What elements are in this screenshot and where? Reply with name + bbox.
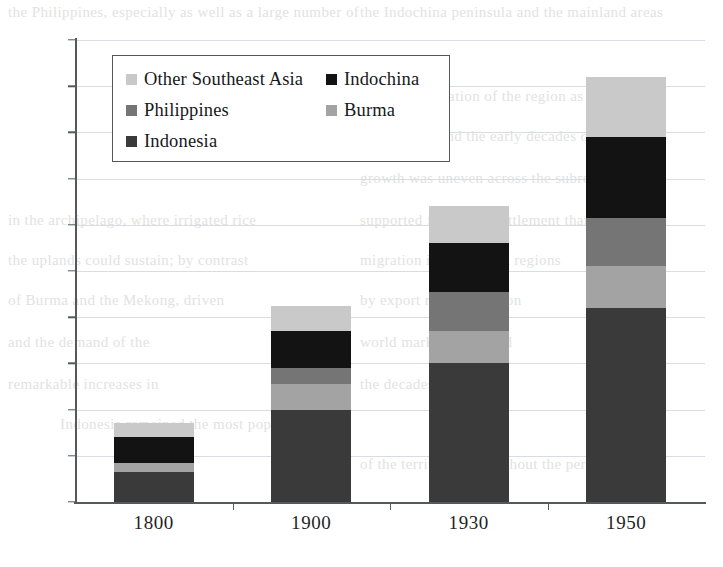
legend-item-indonesia: Indonesia — [113, 131, 313, 152]
y-tick-mark-40 — [68, 409, 75, 410]
bar-group-1950 — [586, 77, 666, 502]
x-tick-mark-1 — [233, 502, 234, 510]
bar-group-1900 — [271, 306, 351, 502]
y-tick-mark-200 — [68, 39, 75, 40]
x-tick-mark-3 — [548, 502, 549, 510]
legend-item-burma: Burma — [313, 100, 451, 121]
legend-item-philippines: Philippines — [113, 100, 313, 121]
legend-label: Burma — [344, 100, 395, 121]
legend-swatch-icon — [126, 74, 137, 85]
legend-item-other-southeast-asia: Other Southeast Asia — [113, 69, 313, 90]
x-tick-mark-2 — [390, 502, 391, 510]
bar-segment-other-southeast-asia-1950 — [586, 77, 666, 137]
bar-segment-indochina-1900 — [271, 331, 351, 368]
legend-swatch-icon — [126, 136, 137, 147]
bar-group-1800 — [114, 423, 194, 502]
bar-segment-other-southeast-asia-1800 — [114, 423, 194, 437]
y-axis-line — [75, 38, 77, 504]
y-tick-mark-160 — [68, 132, 75, 133]
bar-segment-indonesia-1930 — [429, 363, 509, 502]
legend-label: Indonesia — [144, 131, 217, 152]
y-tick-mark-140 — [68, 178, 75, 179]
legend-label: Philippines — [144, 100, 229, 121]
chart-legend: Other Southeast AsiaIndochinaPhilippines… — [112, 55, 450, 162]
bar-segment-burma-1900 — [271, 384, 351, 409]
x-tick-label-1930: 1930 — [449, 512, 489, 534]
bar-segment-burma-1800 — [114, 463, 194, 472]
y-tick-mark-100 — [68, 270, 75, 271]
y-tick-mark-180 — [68, 85, 75, 86]
bar-segment-burma-1930 — [429, 331, 509, 363]
bar-segment-indochina-1930 — [429, 243, 509, 292]
legend-swatch-icon — [326, 74, 337, 85]
bar-segment-other-southeast-asia-1930 — [429, 206, 509, 243]
bar-segment-philippines-1950 — [586, 218, 666, 267]
bar-segment-indonesia-1950 — [586, 308, 666, 502]
bar-segment-indonesia-1800 — [114, 472, 194, 502]
stacked-bar-chart: 020406080100120140160180200 180019001930… — [0, 0, 723, 567]
bar-group-1930 — [429, 206, 509, 502]
legend-swatch-icon — [326, 105, 337, 116]
bar-segment-philippines-1930 — [429, 292, 509, 331]
y-tick-mark-120 — [68, 224, 75, 225]
bar-segment-burma-1950 — [586, 266, 666, 308]
bar-segment-indochina-1950 — [586, 137, 666, 218]
y-tick-mark-20 — [68, 455, 75, 456]
bar-segment-other-southeast-asia-1900 — [271, 306, 351, 331]
legend-swatch-icon — [126, 105, 137, 116]
y-tick-mark-80 — [68, 316, 75, 317]
legend-label: Other Southeast Asia — [144, 69, 303, 90]
bar-segment-indonesia-1900 — [271, 410, 351, 502]
x-tick-label-1800: 1800 — [134, 512, 174, 534]
x-tick-label-1950: 1950 — [606, 512, 646, 534]
x-tick-label-1900: 1900 — [291, 512, 331, 534]
legend-label: Indochina — [344, 69, 419, 90]
bar-segment-indochina-1800 — [114, 437, 194, 462]
y-tick-mark-60 — [68, 363, 75, 364]
bar-segment-philippines-1900 — [271, 368, 351, 384]
legend-item-indochina: Indochina — [313, 69, 451, 90]
